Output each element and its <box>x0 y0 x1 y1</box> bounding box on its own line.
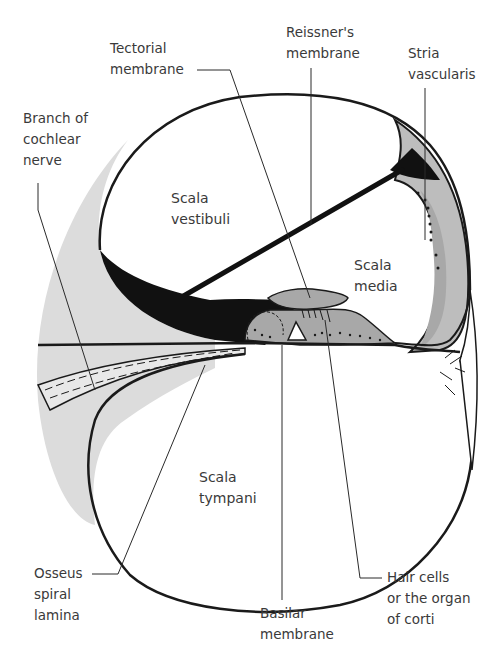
label-scala-vestibuli: Scala vestibuli <box>171 188 230 230</box>
scala-vestibuli-wall <box>100 94 470 290</box>
organ-of-corti-cells <box>245 309 395 345</box>
label-basilar-membrane: Basilar membrane <box>260 603 334 645</box>
label-hair-cells-organ-of-corti: Hair cells or the organ of corti <box>387 567 471 630</box>
leader-tectorial <box>197 70 310 298</box>
label-stria-vascularis: Stria vascularis <box>408 43 476 85</box>
label-scala-media: Scala media <box>354 255 398 297</box>
label-tectorial-membrane: Tectorial membrane <box>110 38 184 80</box>
label-scala-tympani: Scala tympani <box>199 467 257 509</box>
label-reissners-membrane: Reissner's membrane <box>286 22 360 64</box>
leader-hair-cells <box>325 320 382 578</box>
label-osseus-spiral-lamina: Osseus spiral lamina <box>34 563 83 626</box>
label-branch-of-cochlear-nerve: Branch of cochlear nerve <box>23 108 88 171</box>
